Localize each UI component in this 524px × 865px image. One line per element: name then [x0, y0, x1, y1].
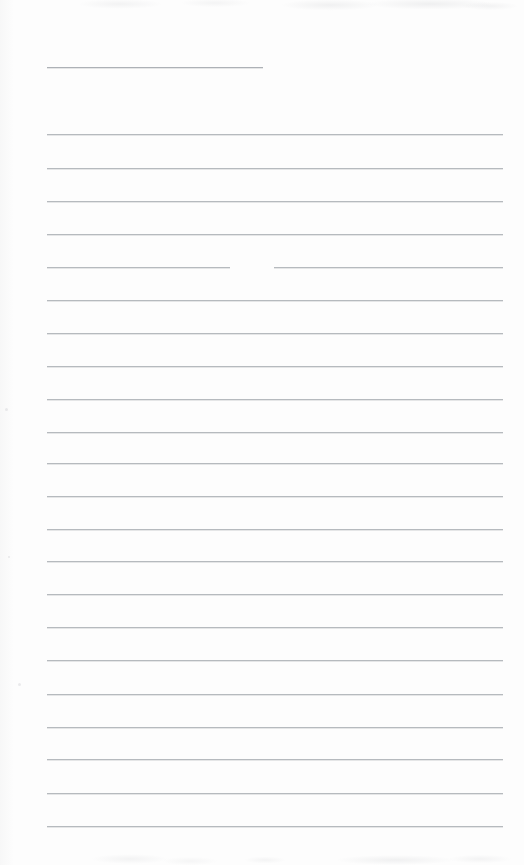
- scan-speck: [18, 683, 21, 686]
- ruled-line: [47, 529, 503, 530]
- ruled-line: [47, 727, 503, 728]
- ruled-line: [47, 333, 503, 334]
- ruled-line: [47, 627, 503, 628]
- scan-speck: [8, 556, 10, 558]
- ruled-line: [47, 594, 503, 595]
- scan-artifact-top-edge: [0, 0, 524, 16]
- scan-artifact-bottom-edge: [0, 843, 524, 865]
- ruled-line: [274, 267, 503, 268]
- ruled-line: [47, 463, 503, 464]
- ruled-line: [47, 168, 503, 169]
- ruled-line: [47, 660, 503, 661]
- ruled-line: [47, 826, 503, 827]
- ruled-line: [47, 432, 503, 433]
- ruled-line: [47, 366, 503, 367]
- ruled-line: [47, 694, 503, 695]
- scan-speck: [5, 408, 8, 411]
- ruled-line: [47, 201, 503, 202]
- scanned-page: [0, 0, 524, 865]
- ruled-line: [47, 134, 503, 135]
- ruled-line: [47, 496, 503, 497]
- ruled-line: [47, 234, 503, 235]
- ruled-line: [47, 300, 503, 301]
- ruled-line: [47, 793, 503, 794]
- ruled-line: [47, 759, 503, 760]
- ruled-line: [47, 561, 503, 562]
- scan-edge-shadow-left: [0, 0, 14, 865]
- ruled-line: [47, 399, 503, 400]
- ruled-line: [47, 267, 230, 268]
- ruled-line: [47, 67, 263, 68]
